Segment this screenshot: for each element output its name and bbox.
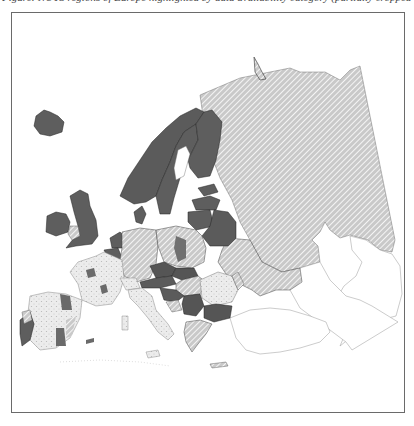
region-france (70, 252, 124, 306)
region-estonia (198, 184, 218, 196)
region-sicily (146, 350, 160, 358)
region-ireland (46, 212, 70, 236)
region-sardinia (122, 316, 128, 330)
region-bosnia (166, 300, 182, 312)
region-crete (210, 362, 228, 368)
north-africa-coast (60, 360, 170, 366)
region-bulgaria (204, 304, 232, 322)
region-uk (66, 190, 98, 248)
region-denmark (134, 206, 146, 224)
europe-map (0, 0, 414, 426)
region-balearics (86, 338, 94, 344)
region-greece (184, 320, 212, 352)
region-germany (120, 228, 158, 282)
region-serbia (182, 294, 204, 316)
region-iceland (34, 110, 64, 136)
region-latvia (192, 196, 220, 210)
